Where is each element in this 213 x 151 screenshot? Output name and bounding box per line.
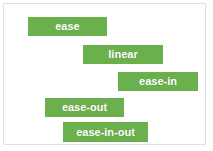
bar-label-ease-in-out: ease-in-out [76,127,135,138]
bar-ease: ease [28,17,107,36]
bar-ease-in: ease-in [118,72,198,91]
bar-label-ease: ease [55,21,79,32]
easing-functions-diagram: ease linear ease-in ease-out ease-in-out [0,0,213,151]
bar-label-linear: linear [108,49,137,60]
bar-linear: linear [83,45,163,64]
bar-ease-in-out: ease-in-out [63,122,148,142]
bar-label-ease-in: ease-in [139,76,177,87]
bar-label-ease-out: ease-out [62,102,107,113]
diagram-card: ease linear ease-in ease-out ease-in-out [3,3,206,145]
bar-ease-out: ease-out [45,98,124,117]
